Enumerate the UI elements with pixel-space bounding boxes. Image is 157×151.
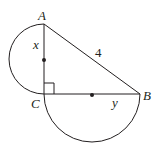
label-hypotenuse: 4 — [95, 45, 102, 60]
label-c: C — [31, 96, 40, 111]
center-dot-ac — [42, 58, 46, 62]
label-y: y — [110, 95, 118, 110]
segment-ab-hypotenuse — [44, 24, 140, 94]
label-b: B — [143, 88, 151, 103]
label-x: x — [32, 37, 39, 52]
center-dot-cb — [90, 93, 94, 97]
label-a: A — [37, 8, 46, 23]
geometry-diagram: A C B x 4 y — [0, 0, 157, 151]
right-angle-marker — [44, 83, 54, 94]
semicircle-cb — [44, 94, 140, 142]
semicircle-ac — [9, 24, 44, 94]
